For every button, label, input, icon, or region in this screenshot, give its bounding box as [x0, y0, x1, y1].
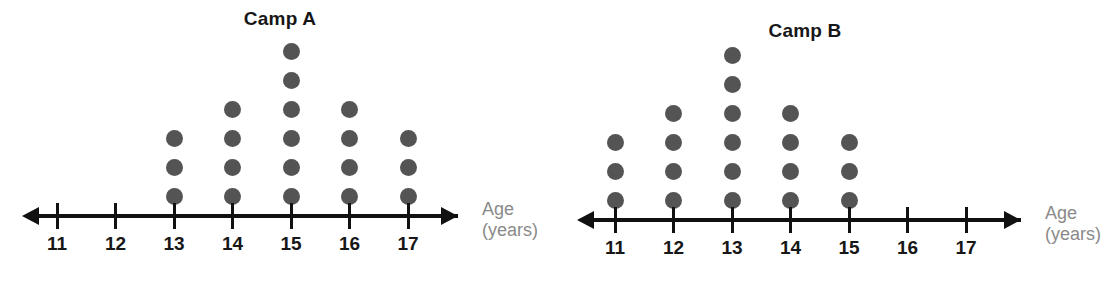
data-dot	[724, 105, 741, 122]
data-dot	[607, 134, 624, 151]
data-dot	[665, 105, 682, 122]
axis-caption-camp-b: Age (years)	[1045, 203, 1101, 245]
plot-title-camp-b: Camp B	[555, 20, 1055, 42]
data-dot	[341, 159, 358, 176]
axis-tick-label: 14	[771, 237, 811, 259]
axis-tick	[848, 207, 851, 233]
axis-tick	[731, 207, 734, 233]
axis-tick	[290, 203, 293, 229]
axis-caption-camp-a: Age (years)	[482, 199, 538, 241]
data-dot	[400, 159, 417, 176]
data-dot	[400, 130, 417, 147]
axis-tick-label: 16	[888, 237, 928, 259]
data-dot	[283, 101, 300, 118]
data-dot	[283, 72, 300, 89]
axis-tick-label: 13	[154, 233, 194, 255]
data-dot	[665, 134, 682, 151]
axis-tick-label: 12	[96, 233, 136, 255]
axis-tick	[407, 203, 410, 229]
data-dot	[224, 101, 241, 118]
data-dot	[724, 134, 741, 151]
data-dot	[166, 130, 183, 147]
axis-arrow-left-icon	[577, 211, 594, 229]
axis-tick	[789, 207, 792, 233]
axis-tick	[231, 203, 234, 229]
axis-tick	[173, 203, 176, 229]
axis-tick	[906, 207, 909, 233]
axis-caption-line-1: Age	[1045, 203, 1101, 224]
axis-tick	[672, 207, 675, 233]
axis-arrow-left-icon	[22, 207, 39, 225]
axis-caption-line-2: (years)	[482, 220, 538, 241]
dot-plot-camp-b: Camp B 11121314151617 Age (years)	[555, 0, 1115, 284]
data-dot	[665, 163, 682, 180]
axis-tick	[614, 207, 617, 233]
data-dot	[283, 43, 300, 60]
axis-caption-line-2: (years)	[1045, 224, 1101, 245]
axis-tick-label: 12	[654, 237, 694, 259]
axis-tick-label: 17	[388, 233, 428, 255]
data-dot	[224, 130, 241, 147]
axis-tick-label: 13	[712, 237, 752, 259]
axis-tick-label: 14	[213, 233, 253, 255]
data-dot	[224, 159, 241, 176]
axis-tick-label: 15	[271, 233, 311, 255]
axis-tick	[348, 203, 351, 229]
axis-arrow-right-icon	[1004, 211, 1021, 229]
plot-title-camp-a: Camp A	[0, 8, 560, 30]
data-dot	[724, 47, 741, 64]
data-dot	[283, 130, 300, 147]
data-dot	[724, 163, 741, 180]
axis-tick	[114, 203, 117, 229]
data-dot	[841, 163, 858, 180]
number-line-camp-b	[583, 218, 1021, 222]
axis-tick	[965, 207, 968, 233]
number-line-camp-a	[28, 214, 458, 218]
data-dot	[724, 76, 741, 93]
dot-plot-camp-a: Camp A 11121314151617 Age (years)	[0, 0, 560, 284]
data-dot	[283, 159, 300, 176]
data-dot	[341, 130, 358, 147]
axis-tick-label: 11	[595, 237, 635, 259]
axis-caption-line-1: Age	[482, 199, 538, 220]
axis-tick-label: 11	[37, 233, 77, 255]
data-dot	[841, 134, 858, 151]
data-dot	[782, 105, 799, 122]
data-dot	[166, 159, 183, 176]
data-dot	[607, 163, 624, 180]
axis-arrow-right-icon	[441, 207, 458, 225]
axis-tick-label: 16	[330, 233, 370, 255]
axis-tick	[56, 203, 59, 229]
data-dot	[341, 101, 358, 118]
data-dot	[782, 163, 799, 180]
axis-tick-label: 17	[946, 237, 986, 259]
data-dot	[782, 134, 799, 151]
axis-tick-label: 15	[829, 237, 869, 259]
